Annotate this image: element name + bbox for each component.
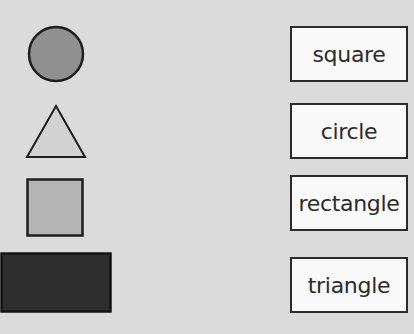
label-card-circle[interactable]: circle bbox=[290, 103, 408, 159]
label-card-square-text: square bbox=[312, 42, 385, 67]
label-card-circle-text: circle bbox=[321, 119, 378, 144]
label-card-triangle-text: triangle bbox=[308, 273, 390, 298]
shape-triangle[interactable] bbox=[25, 103, 87, 159]
label-card-rectangle-text: rectangle bbox=[298, 191, 399, 216]
shape-rectangle[interactable] bbox=[0, 252, 112, 313]
square-icon bbox=[26, 178, 84, 237]
circle-icon bbox=[26, 24, 86, 84]
shape-matching-activity: square circle rectangle triangle bbox=[0, 0, 414, 334]
rectangle-icon bbox=[0, 252, 112, 313]
label-card-square[interactable]: square bbox=[290, 26, 408, 82]
label-card-rectangle[interactable]: rectangle bbox=[290, 175, 408, 231]
triangle-icon bbox=[25, 103, 87, 159]
label-card-triangle[interactable]: triangle bbox=[290, 257, 408, 313]
shape-circle[interactable] bbox=[26, 24, 86, 84]
shape-square[interactable] bbox=[26, 178, 84, 237]
